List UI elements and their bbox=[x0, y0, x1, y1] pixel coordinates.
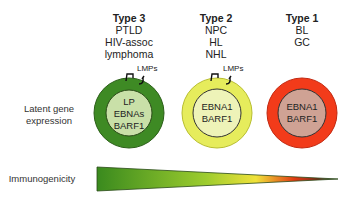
gene-label: EBNAs bbox=[104, 108, 154, 120]
type2-line: HL bbox=[191, 36, 241, 48]
type1-line: BL bbox=[277, 24, 327, 36]
label-line: expression bbox=[14, 115, 84, 127]
gene-label: BARF1 bbox=[104, 120, 154, 132]
type3-line: PTLD bbox=[104, 24, 154, 36]
type1-header: Type 1 BL GC bbox=[277, 12, 327, 48]
type2-header: Type 2 NPC HL NHL bbox=[191, 12, 241, 60]
type3-header: Type 3 PTLD HIV-assoc lymphoma bbox=[104, 12, 154, 60]
type2-title: Type 2 bbox=[191, 12, 241, 24]
gene-label: EBNA1 bbox=[277, 101, 327, 113]
gene-label: BARF1 bbox=[192, 113, 242, 125]
label-line: Latent gene bbox=[14, 103, 84, 115]
type1-genes: EBNA1 BARF1 bbox=[277, 101, 327, 125]
type2-line: NHL bbox=[191, 48, 241, 60]
type3-title: Type 3 bbox=[104, 12, 154, 24]
immunogenicity-label: Immunogenicity bbox=[4, 173, 80, 185]
type1-line: GC bbox=[277, 36, 327, 48]
type3-line: HIV-assoc bbox=[104, 36, 154, 48]
type1-title: Type 1 bbox=[277, 12, 327, 24]
gene-label: LP bbox=[104, 96, 154, 108]
type2-genes: EBNA1 BARF1 bbox=[192, 101, 242, 125]
gene-label: EBNA1 bbox=[192, 101, 242, 113]
type2-lmps-label: LMPs bbox=[223, 64, 243, 73]
immunogenicity-gradient bbox=[97, 167, 338, 191]
type3-lmps-label: LMPs bbox=[137, 64, 157, 73]
latent-gene-expression-label: Latent gene expression bbox=[14, 103, 84, 127]
gene-label: BARF1 bbox=[277, 113, 327, 125]
type3-line: lymphoma bbox=[104, 48, 154, 60]
type3-genes: LP EBNAs BARF1 bbox=[104, 96, 154, 132]
type2-line: NPC bbox=[191, 24, 241, 36]
